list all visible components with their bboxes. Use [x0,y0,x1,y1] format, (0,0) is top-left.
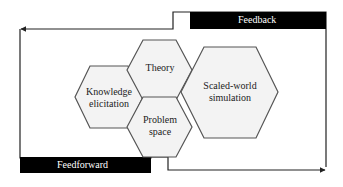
theory-label: Theory [133,62,187,74]
diagram-canvas [0,0,343,187]
problem-space-label: Problem space [133,114,187,138]
scaled-world-simulation-label: Scaled-world simulation [192,80,268,104]
knowledge-elicitation-label: Knowledge elicitation [80,86,138,110]
feedback-label: Feedback [238,12,276,28]
feedforward-label: Feedforward [57,157,108,173]
